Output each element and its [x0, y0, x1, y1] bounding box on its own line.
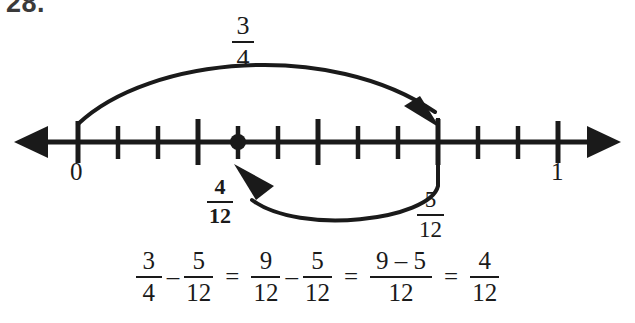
right-arrow-icon — [587, 126, 621, 158]
bottom-arc-label-numerator: 5 — [423, 188, 439, 212]
equation-equals-3: = — [444, 263, 458, 291]
marked-point-denominator: 12 — [207, 205, 233, 228]
number-line-label-one: 1 — [551, 158, 564, 186]
bottom-arc-label-bar — [417, 214, 444, 216]
equation-term-2-denominator: 12 — [184, 280, 213, 306]
equation-term-5: 9 – 5 12 — [370, 248, 432, 306]
equation-term-3-numerator: 9 — [258, 248, 275, 274]
equation-term-6: 4 12 — [470, 248, 499, 306]
equation-equals-2: = — [344, 263, 358, 291]
point-dot-icon — [230, 134, 246, 150]
equation-term-4: 5 12 — [303, 248, 332, 306]
top-arc-label-denominator: 4 — [235, 45, 252, 72]
number-line-label-zero: 0 — [70, 158, 83, 186]
equation-operator-2: – — [285, 263, 298, 291]
equation-term-2-numerator: 5 — [191, 248, 208, 274]
equation-term-3: 9 12 — [251, 248, 280, 306]
equation-operator-1: – — [167, 263, 180, 291]
equation-term-6-bar — [470, 276, 499, 278]
equation-term-3-denominator: 12 — [251, 280, 280, 306]
equation-term-5-numerator: 9 – 5 — [374, 248, 428, 274]
equation-term-6-numerator: 4 — [476, 248, 493, 274]
marked-point-numerator: 4 — [213, 176, 228, 199]
bottom-arc-label-denominator: 12 — [417, 218, 444, 242]
equation-term-1-bar — [136, 276, 162, 278]
equation-row: 3 4 – 5 12 = 9 12 – 5 12 = 9 – 5 12 = — [0, 248, 635, 306]
equation-term-1-denominator: 4 — [141, 280, 158, 306]
equation-term-3-bar — [251, 276, 280, 278]
arc-arrowhead-left-icon — [234, 164, 274, 200]
equation-term-2: 5 12 — [184, 248, 213, 306]
equation-term-5-bar — [370, 276, 432, 278]
equation-term-4-bar — [303, 276, 332, 278]
equation-term-1-numerator: 3 — [141, 248, 158, 274]
equation-term-4-numerator: 5 — [309, 248, 326, 274]
equation-term-1: 3 4 — [136, 248, 162, 306]
top-arc-path — [78, 65, 435, 124]
marked-point-label: 4 12 — [207, 176, 233, 228]
equation-term-2-bar — [184, 276, 213, 278]
worksheet-figure: 28. — [0, 0, 635, 323]
equation-term-4-denominator: 12 — [303, 280, 332, 306]
equation-term-5-denominator: 12 — [387, 280, 416, 306]
equation-equals-1: = — [225, 263, 239, 291]
top-arc-label: 3 4 — [232, 12, 254, 72]
top-arc-label-numerator: 3 — [235, 12, 252, 39]
equation-term-6-denominator: 12 — [470, 280, 499, 306]
left-arrow-icon — [14, 126, 48, 158]
bottom-arc-label: 5 12 — [417, 188, 444, 242]
top-arc-label-bar — [232, 41, 254, 43]
